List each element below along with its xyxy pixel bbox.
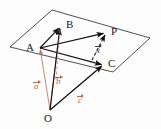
point-label-C: C: [108, 58, 115, 69]
vector-label-c: c: [78, 94, 82, 105]
figure-canvas: A B C P O a b c x: [0, 0, 161, 129]
vector-label-x: x: [96, 44, 100, 55]
vector-label-a-text: a: [34, 81, 39, 91]
solid-vectors-group: [40, 28, 104, 110]
vector-label-b-text: b: [56, 76, 61, 86]
point-label-P: P: [111, 26, 117, 37]
point-label-B: B: [66, 19, 73, 30]
vector-diagram: [0, 0, 161, 129]
point-label-A: A: [26, 42, 34, 53]
vector-O-to-A: [40, 49, 50, 110]
vector-label-c-text: c: [78, 95, 82, 105]
vector-A-to-P: [40, 33, 104, 48]
vector-O-to-C: [50, 66, 102, 110]
vector-label-b: b: [56, 75, 61, 86]
dashed-lines-group: [56, 30, 105, 80]
point-label-O: O: [44, 113, 52, 124]
vector-A-to-B: [40, 28, 59, 48]
vector-label-x-text: x: [96, 45, 100, 55]
vector-O-to-B: [50, 28, 60, 110]
vector-label-a: a: [34, 80, 39, 91]
